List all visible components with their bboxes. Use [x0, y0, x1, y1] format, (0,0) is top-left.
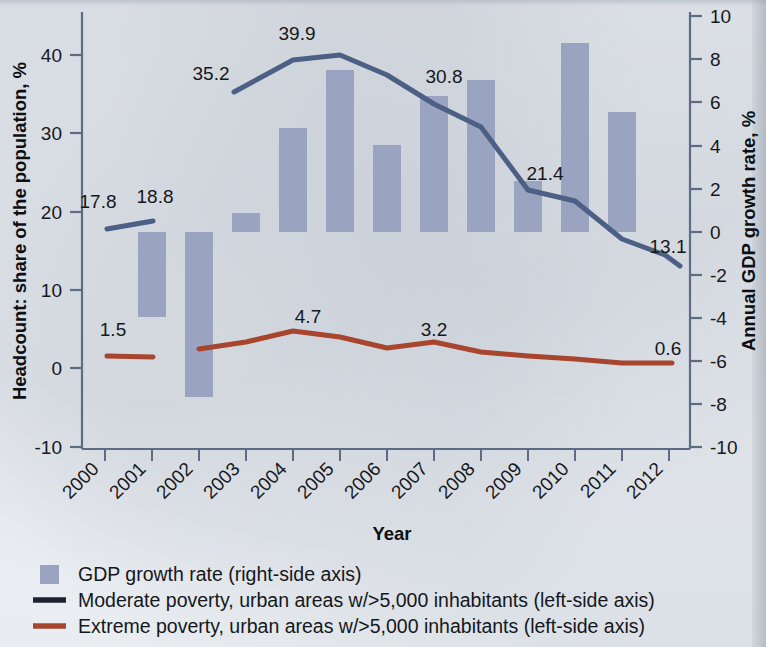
ytick-40: 40	[41, 45, 62, 66]
axis-right	[690, 12, 702, 449]
label-moderate-2010: 21.4	[527, 163, 564, 184]
ytick-30: 30	[41, 123, 62, 144]
bar-2005[interactable]	[326, 70, 354, 232]
y2tick-6: 6	[710, 92, 721, 113]
extreme-poverty-segment-a[interactable]	[107, 356, 153, 357]
xtick-2003: 2003	[199, 458, 244, 503]
xtick-2007: 2007	[387, 458, 432, 503]
label-extreme-2012: 0.6	[655, 338, 681, 359]
label-moderate-2000: 17.8	[80, 191, 117, 212]
x-axis-title: Year	[372, 523, 411, 544]
y2tick-0: 0	[710, 222, 721, 243]
ytick-0: 0	[51, 358, 62, 379]
label-extreme-2000: 1.5	[100, 319, 126, 340]
moderate-poverty-segment-a[interactable]	[107, 221, 153, 229]
bar-2003[interactable]	[232, 213, 260, 232]
y2tick-2: 2	[710, 179, 721, 200]
y2tick-neg4: -4	[710, 308, 727, 329]
xtick-2008: 2008	[434, 458, 479, 503]
xtick-2006: 2006	[340, 458, 385, 503]
label-moderate-2008: 30.8	[426, 66, 463, 87]
chart-svg: 40 30 20 10 0 -10 Headcount: share of th…	[0, 0, 766, 647]
label-moderate-2012: 13.1	[650, 236, 687, 257]
y2tick-neg2: -2	[710, 265, 727, 286]
legend: GDP growth rate (right-side axis) Modera…	[33, 563, 655, 637]
axis-x	[82, 449, 690, 461]
label-extreme-2004: 4.7	[295, 306, 321, 327]
y-axis-title: Headcount: share of the population, %	[9, 62, 30, 400]
legend-label-extreme[interactable]: Extreme poverty, urban areas w/>5,000 in…	[78, 615, 645, 637]
legend-label-moderate[interactable]: Moderate poverty, urban areas w/>5,000 i…	[78, 589, 655, 611]
legend-label-gdp[interactable]: GDP growth rate (right-side axis)	[78, 563, 362, 585]
label-moderate-2003: 35.2	[193, 63, 230, 84]
axis-right-tick-labels: 10 8 6 4 2 0 -2 -4 -6 -8 -10	[710, 6, 737, 458]
xtick-2002: 2002	[152, 458, 197, 503]
y2tick-neg8: -8	[710, 394, 727, 415]
xtick-2009: 2009	[481, 458, 526, 503]
axis-left-tick-labels: 40 30 20 10 0 -10	[35, 45, 62, 458]
y2tick-4: 4	[710, 136, 721, 157]
y2tick-neg6: -6	[710, 351, 727, 372]
xtick-2004: 2004	[246, 458, 291, 503]
y2tick-neg10: -10	[710, 437, 737, 458]
bar-2002[interactable]	[185, 232, 213, 397]
bar-2004[interactable]	[279, 128, 307, 232]
bar-2007[interactable]	[420, 96, 448, 232]
bar-2011[interactable]	[608, 112, 636, 232]
bar-2008[interactable]	[467, 80, 495, 232]
y2tick-10: 10	[710, 6, 731, 27]
ytick-neg10: -10	[35, 437, 62, 458]
label-moderate-2001: 18.8	[137, 186, 174, 207]
xtick-2011: 2011	[576, 458, 620, 502]
xtick-2000: 2000	[58, 458, 103, 503]
xtick-2010: 2010	[528, 458, 573, 503]
xtick-2001: 2001	[105, 458, 150, 503]
bar-2001[interactable]	[138, 232, 166, 317]
axis-left	[70, 12, 82, 449]
ytick-10: 10	[41, 280, 62, 301]
axis-x-tick-labels: 2000 2001 2002 2003 2004 2005 2006 2007 …	[58, 458, 667, 503]
xtick-2012: 2012	[622, 458, 667, 503]
legend-swatch-gdp	[40, 565, 59, 584]
chart-figure: 40 30 20 10 0 -10 Headcount: share of th…	[0, 0, 766, 647]
label-moderate-2005: 39.9	[279, 23, 316, 44]
y2-axis-title: Annual GDP growth rate, %	[738, 111, 759, 351]
bar-series-gdp-growth	[138, 43, 636, 397]
y2tick-8: 8	[710, 49, 721, 70]
xtick-2005: 2005	[293, 458, 338, 503]
label-extreme-2007: 3.2	[421, 319, 447, 340]
ytick-20: 20	[41, 202, 62, 223]
bar-2006[interactable]	[373, 145, 401, 232]
